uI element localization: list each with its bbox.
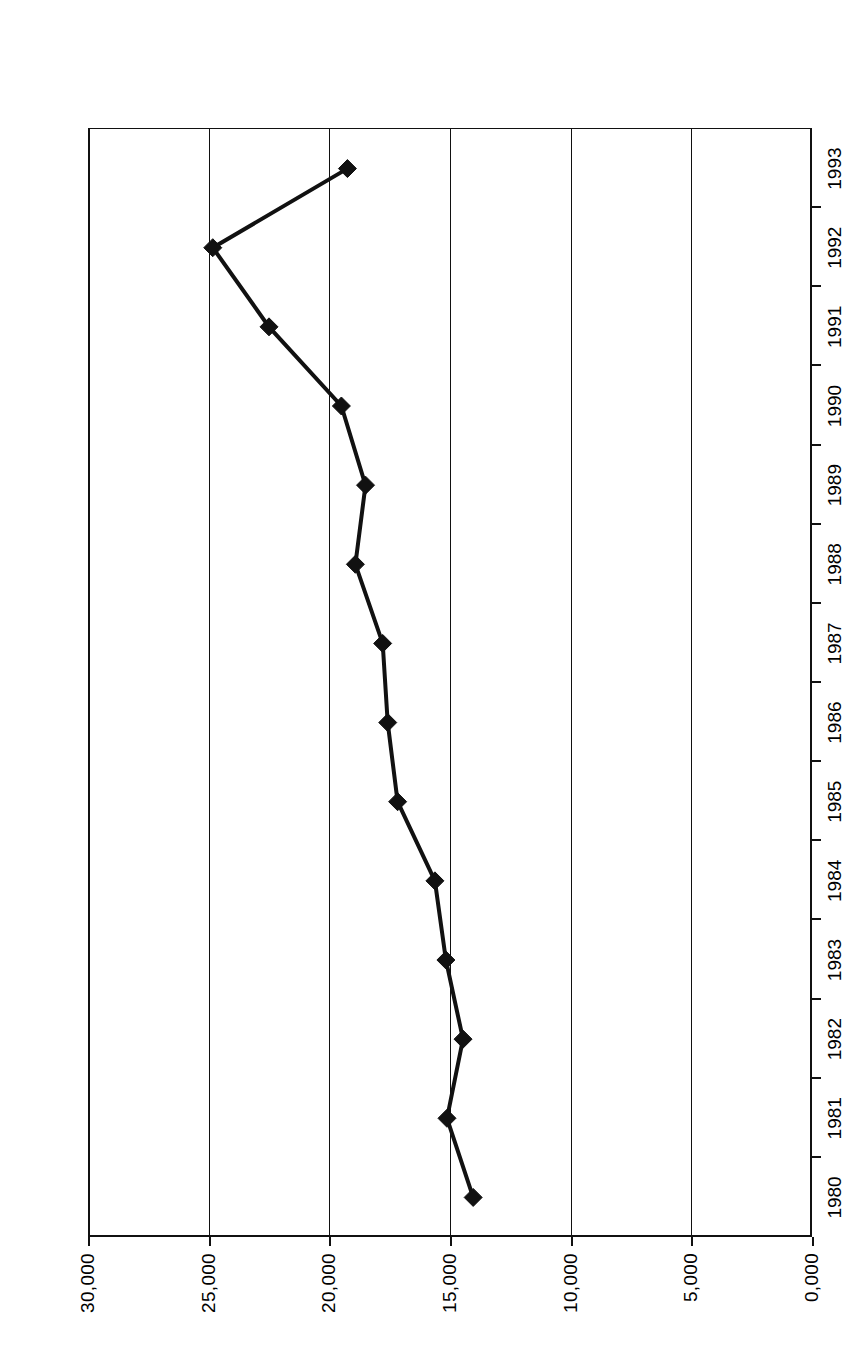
data-point-1980 <box>464 1188 482 1206</box>
data-markers <box>204 160 482 1207</box>
data-point-1981 <box>438 1109 456 1127</box>
data-series-svg <box>0 0 858 1363</box>
data-point-1989 <box>357 476 375 494</box>
line-chart: 0,0005,00010,00015,00020,00025,00030,000… <box>0 0 858 1363</box>
data-point-1988 <box>346 555 364 573</box>
data-point-1982 <box>454 1030 472 1048</box>
data-line <box>213 169 473 1198</box>
data-point-1987 <box>374 634 392 652</box>
data-point-1993 <box>338 160 356 178</box>
data-point-1986 <box>379 714 397 732</box>
data-point-1985 <box>389 793 407 811</box>
rotated-canvas: 0,0005,00010,00015,00020,00025,00030,000… <box>0 0 858 1363</box>
data-point-1983 <box>437 951 455 969</box>
chart-page: 0,0005,00010,00015,00020,00025,00030,000… <box>0 0 858 1363</box>
data-point-1984 <box>426 872 444 890</box>
